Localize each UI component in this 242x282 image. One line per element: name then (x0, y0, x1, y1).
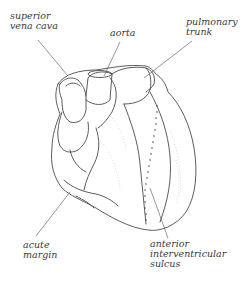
label-anterior-interventricular-sulcus: anterior interventricular sulcus (150, 239, 226, 269)
heart-outline (51, 65, 195, 230)
label-pulmonary-trunk: pulmonary trunk (186, 17, 238, 37)
leader-acute-margin (36, 192, 70, 236)
label-superior-vena-cava: superior vena cava (10, 11, 58, 31)
label-acute-margin: acute margin (23, 240, 57, 260)
heart-diagram: superior vena cava aorta pulmonary trunk… (0, 0, 242, 282)
leader-pulmonary-trunk (144, 41, 192, 78)
label-aorta: aorta (110, 28, 135, 38)
leader-lines (36, 40, 192, 238)
leader-superior-vena-cava (38, 40, 68, 76)
